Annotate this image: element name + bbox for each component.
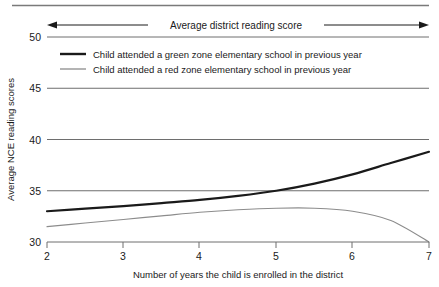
legend-label-red-zone: Child attended a red zone elementary sch… [93, 64, 351, 75]
x-tick-label-6: 6 [349, 250, 355, 262]
y-tick-label-45: 45 [29, 82, 41, 94]
y-axis-title: Average NCE reading scores [5, 78, 16, 201]
chart-legend: Child attended a green zone elementary s… [56, 46, 376, 76]
y-tick-label-30: 30 [29, 236, 41, 248]
reading-score-line-chart: Average district reading score Child att… [0, 0, 439, 287]
y-tick-label-35: 35 [29, 185, 41, 197]
chart-background [0, 0, 439, 287]
annotation-label: Average district reading score [170, 20, 303, 31]
chart-figure: Average district reading score Child att… [0, 0, 439, 287]
x-tick-label-3: 3 [120, 250, 126, 262]
x-tick-label-5: 5 [273, 250, 279, 262]
x-tick-label-7: 7 [426, 250, 432, 262]
x-tick-label-4: 4 [196, 250, 202, 262]
x-axis-title: Number of years the child is enrolled in… [133, 269, 344, 280]
legend-label-green-zone: Child attended a green zone elementary s… [93, 49, 362, 60]
y-tick-label-50: 50 [29, 31, 41, 43]
y-tick-label-40: 40 [29, 134, 41, 146]
x-tick-label-2: 2 [44, 250, 50, 262]
